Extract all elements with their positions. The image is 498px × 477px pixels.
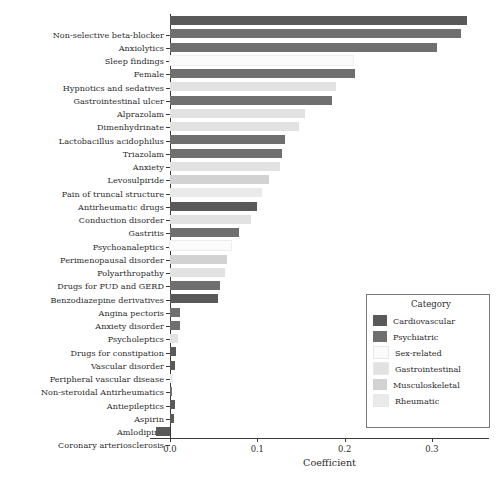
y-axis-tick-label: Psycholeptics	[0, 333, 164, 345]
legend-entry-label: Musculoskeletal	[393, 381, 460, 389]
y-axis-tick-label: Gastritis	[0, 227, 164, 239]
bar	[170, 175, 269, 184]
y-axis-tick-label: Female	[0, 68, 164, 80]
legend-entry-label: Sex-related	[395, 349, 442, 357]
bar	[170, 387, 172, 396]
bar	[170, 255, 227, 264]
y-axis-tick-label-text: Antiepileptics	[107, 402, 164, 410]
legend-entry[interactable]: Rheumatic	[373, 393, 483, 409]
y-axis-tick-label: Non-steroidal Antirheumatics	[0, 386, 164, 398]
y-axis-tick-label: Angina pectoris	[0, 307, 164, 319]
bar	[170, 268, 225, 277]
x-axis-tick-mark	[170, 438, 171, 442]
y-axis-tick-label: Alprazolam	[0, 108, 164, 120]
y-axis-tick-label-text: Polyarthropathy	[97, 269, 164, 277]
bar	[170, 281, 220, 290]
legend-entry[interactable]: Gastrointestinal	[373, 361, 483, 377]
y-axis-tick-label-text: Benzodiazepine derivatives	[50, 296, 164, 304]
legend-entry-label: Gastrointestinal	[395, 365, 461, 373]
bar	[170, 135, 285, 144]
bar	[170, 228, 239, 237]
x-axis-tick-mark	[257, 438, 258, 442]
bar	[170, 43, 437, 52]
x-axis-tick-mark	[432, 438, 433, 442]
legend-color-swatch	[373, 346, 389, 359]
bar	[170, 122, 299, 131]
bar	[170, 202, 257, 211]
x-axis-tick-label: 0.1	[251, 444, 264, 454]
y-axis-tick-label-text: Antirheumatic drugs	[78, 203, 164, 211]
y-axis-tick-label-text: Female	[134, 70, 164, 78]
y-axis-tick-label: Non-selective beta-blocker	[0, 29, 164, 41]
y-axis-tick-label: Drugs for PUD and GERD	[0, 280, 164, 292]
y-axis-tick-label: Drugs for constipation	[0, 347, 164, 359]
bar	[170, 149, 282, 158]
y-axis-tick-label: Benzodiazepine derivatives	[0, 294, 164, 306]
y-axis-tick-label: Peripheral vascular disease	[0, 373, 164, 385]
y-axis-tick-label-text: Aspirin	[134, 415, 164, 423]
legend-color-swatch	[373, 315, 387, 326]
bar	[170, 29, 461, 38]
y-axis-tick-label-text: Lactobacillus acidophilus	[59, 137, 164, 145]
y-axis-tick-label: Anxiety disorder	[0, 320, 164, 332]
legend-entries: CardiovascularPsychiatricSex-relatedGast…	[373, 313, 483, 409]
y-axis-tick-label-text: Triazolam	[123, 150, 164, 158]
y-axis-tick-label: Perimenopausal disorder	[0, 254, 164, 266]
bar	[170, 414, 174, 423]
y-axis-tick-label: Gastrointestinal ulcer	[0, 95, 164, 107]
y-axis-tick-label-text: Angina pectoris	[99, 309, 164, 317]
legend-color-swatch	[373, 394, 389, 407]
bar	[170, 347, 176, 356]
bar	[170, 308, 180, 317]
legend-entry[interactable]: Musculoskeletal	[373, 377, 483, 393]
x-axis-tick-label: 0.0	[163, 444, 176, 454]
y-axis-tick-label: Levosulpiride	[0, 174, 164, 186]
legend-color-swatch	[373, 331, 387, 342]
y-axis-tick-label: Polyarthropathy	[0, 267, 164, 279]
y-axis-tick-label: Vascular disorder	[0, 360, 164, 372]
y-axis-tick-label-text: Coronary arteriosclerosis	[58, 441, 164, 449]
y-axis-tick-label: Coronary arteriosclerosis	[0, 439, 164, 451]
y-axis-tick-label-text: Anxiety disorder	[95, 322, 164, 330]
bar	[170, 400, 175, 409]
bar	[170, 82, 336, 91]
legend-entry[interactable]: Sex-related	[373, 345, 483, 361]
y-axis-tick-label: Aspirin	[0, 413, 164, 425]
legend-title: Category	[373, 300, 483, 309]
bar	[170, 215, 251, 224]
x-axis-tick-label: 0.3	[425, 444, 438, 454]
y-axis-tick-label: Triazolam	[0, 148, 164, 160]
x-axis-tick-label: 0.2	[338, 444, 351, 454]
x-axis-tick-mark	[345, 438, 346, 442]
y-axis-tick-label-text: Drugs for constipation	[71, 349, 164, 357]
y-axis-tick-label-text: Alprazolam	[117, 110, 164, 118]
legend-entry[interactable]: Cardiovascular	[373, 313, 483, 329]
bar	[170, 96, 332, 105]
bar	[170, 16, 467, 25]
bar	[170, 361, 175, 370]
x-axis-title: Coefficient	[170, 457, 489, 468]
legend-color-swatch	[373, 362, 389, 375]
y-axis-tick-label-text: Gastrointestinal ulcer	[73, 97, 164, 105]
y-axis-tick-label: Lactobacillus acidophilus	[0, 135, 164, 147]
bar	[170, 56, 353, 65]
y-axis-tick-label: Sleep findings	[0, 55, 164, 67]
y-axis-tick-label-text: Sleep findings	[105, 57, 164, 65]
legend-entry[interactable]: Psychiatric	[373, 329, 483, 345]
y-axis-tick-label: Anxiolytics	[0, 42, 164, 54]
y-axis-tick-label-text: Vascular disorder	[91, 362, 164, 370]
y-axis-tick-label-text: Hypnotics and sedatives	[63, 84, 164, 92]
y-axis-tick-label-text: Non-steroidal Antirheumatics	[41, 388, 164, 396]
chart-figure: Non-selective beta-blockerAnxiolyticsSle…	[0, 0, 498, 477]
y-axis-tick-label: Dimenhydrinate	[0, 121, 164, 133]
bar	[170, 241, 231, 250]
y-axis-tick-label-text: Peripheral vascular disease	[50, 375, 164, 383]
y-axis-tick-label: Psychoanaleptics	[0, 241, 164, 253]
y-axis-tick-label-text: Levosulpiride	[108, 176, 164, 184]
y-axis-tick-label-text: Pain of truncal structure	[62, 190, 164, 198]
bar	[170, 109, 305, 118]
bar	[156, 427, 170, 436]
y-axis-tick-label-text: Gastritis	[128, 229, 164, 237]
y-axis-tick-label: Antiepileptics	[0, 400, 164, 412]
bar	[170, 374, 173, 383]
